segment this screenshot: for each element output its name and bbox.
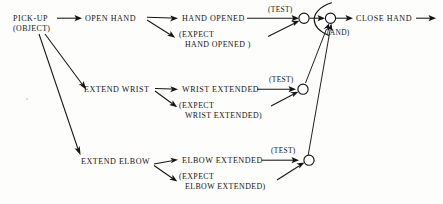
and-junction-label: (AND) — [327, 28, 350, 37]
expect-hand-opened-line1: (EXPECT — [179, 30, 214, 39]
edge-open-hand-to-hand-opened — [147, 15, 178, 21]
test-label-1: (TEST) — [268, 5, 293, 14]
result-node-hand-opened: HAND OPENED — [182, 14, 245, 23]
edge-expect-wrist-extended-to-test2 — [271, 92, 298, 106]
and-junction-node — [325, 13, 335, 23]
action-node-open-hand: OPEN HAND — [85, 14, 136, 23]
result-node-wrist-extended: WRIST EXTENDED — [182, 85, 259, 94]
action-node-extend-elbow: EXTEND ELBOW — [81, 157, 150, 166]
edge-elbow-extended-to-test3 — [262, 157, 299, 163]
edge-test3-to-and — [308, 23, 333, 159]
diagram-canvas: PICK-UP (OBJECT) OPEN HAND HAND OPENED (… — [0, 0, 443, 204]
edge-expect-hand-opened-to-test1 — [268, 21, 299, 37]
edge-pickup-to-open-hand — [57, 15, 82, 21]
flow-diagram: PICK-UP (OBJECT) OPEN HAND HAND OPENED (… — [0, 0, 443, 204]
edge-pickup-to-extend-elbow — [39, 34, 81, 155]
test-node-2 — [298, 84, 308, 94]
output-node-close-hand: CLOSE HAND — [356, 14, 412, 23]
action-node-extend-wrist: EXTEND WRIST — [84, 85, 149, 94]
edge-open-hand-to-expect-hand-opened — [147, 20, 175, 38]
edge-pickup-to-extend-wrist — [45, 34, 86, 90]
expect-wrist-extended-line1: (EXPECT — [179, 101, 214, 110]
edge-close-hand-outgoing — [416, 15, 436, 21]
test-label-2: (TEST) — [269, 75, 294, 84]
result-node-elbow-extended: ELBOW EXTENDED — [182, 156, 263, 165]
edge-expect-elbow-extended-to-test3 — [277, 163, 305, 180]
start-node-line2: (OBJECT) — [13, 24, 50, 33]
expect-elbow-extended-line1: (EXPECT — [179, 172, 214, 181]
test-label-3: (TEST) — [271, 146, 296, 155]
expect-hand-opened-line2: HAND OPENED ) — [185, 40, 251, 49]
test-node-1 — [299, 13, 309, 23]
paper-speck — [26, 98, 28, 100]
expect-elbow-extended-line2: ELBOW EXTENDED) — [185, 182, 266, 191]
test-node-3 — [304, 155, 314, 165]
edge-extend-wrist-to-expect-wrist-extended — [155, 91, 177, 107]
edge-test1-to-and — [310, 15, 326, 21]
expect-wrist-extended-line2: WRIST EXTENDED) — [185, 111, 262, 120]
edge-extend-elbow-to-elbow-extended — [154, 158, 178, 164]
edge-wrist-extended-to-test2 — [257, 86, 296, 92]
edge-extend-wrist-to-wrist-extended — [155, 86, 178, 92]
edge-extend-elbow-to-expect-elbow-extended — [154, 166, 177, 182]
edge-and-to-close-hand — [336, 15, 353, 21]
start-node-line1: PICK-UP — [13, 14, 48, 23]
edge-hand-opened-to-test1 — [247, 15, 299, 21]
